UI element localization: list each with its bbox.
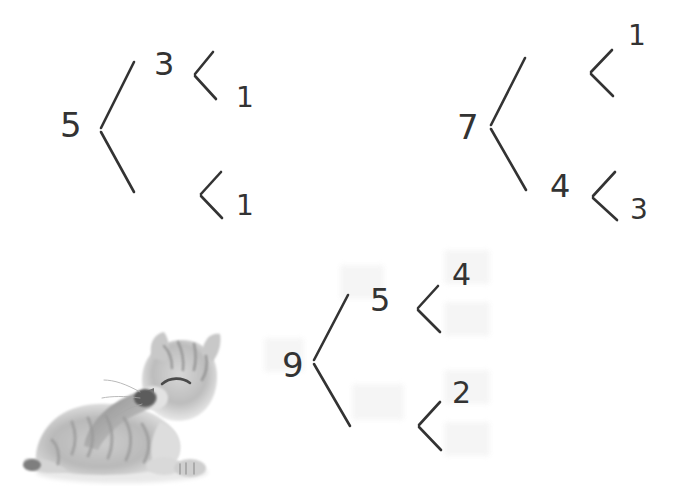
connector-bottom-lower-b: [419, 427, 441, 450]
smudge-patch: [444, 302, 490, 336]
bond-bottom-upper-value: 5: [370, 284, 390, 316]
connector-left-lower-a: [201, 172, 221, 194]
connector-left-root-lower: [101, 132, 134, 192]
connector-bottom-root-lower: [314, 364, 350, 426]
connector-left-root-upper: [101, 62, 134, 128]
connector-right-upper-a: [591, 50, 612, 72]
bond-right-lower-b-value: 3: [630, 196, 648, 224]
bond-right-lower-value: 4: [550, 170, 570, 202]
connector-bottom-root-upper: [314, 295, 348, 360]
smudge-patch: [444, 422, 490, 456]
bond-bottom-root-value: 9: [282, 348, 304, 382]
worksheet-page: 5 3 1 1 7 1 4 3 9 5 4 2: [0, 0, 688, 497]
bond-left-lower-a-value: 1: [236, 192, 254, 220]
connector-right-lower-a: [593, 172, 615, 196]
connector-bottom-lower-a: [419, 402, 440, 425]
bond-bottom-upper-a-value: 4: [452, 260, 471, 290]
bond-left-upper-a-value: 1: [236, 84, 254, 112]
bond-right-upper-a-value: 1: [628, 22, 646, 50]
bond-left-upper-value: 3: [154, 48, 174, 80]
connector-bottom-upper-b: [418, 310, 440, 332]
connector-left-upper-a: [195, 52, 213, 74]
connector-left-upper-b: [195, 76, 216, 99]
connector-right-lower-b: [593, 198, 617, 220]
connector-left-lower-b: [201, 196, 222, 218]
bond-right-root-value: 7: [457, 110, 479, 144]
connector-right-root-lower: [491, 129, 526, 190]
bond-bottom-lower-a-value: 2: [452, 378, 471, 408]
bond-left-root-value: 5: [60, 108, 82, 142]
connector-right-upper-b: [591, 74, 613, 96]
smudge-patch: [352, 384, 404, 420]
connector-bottom-upper-a: [418, 286, 438, 308]
kitten-photo: [14, 322, 230, 490]
connector-right-root-upper: [491, 58, 525, 125]
